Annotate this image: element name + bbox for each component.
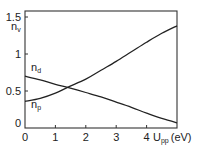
x-tick-label: 0 (22, 131, 28, 143)
series-label-n-d: nd (31, 61, 41, 74)
series-line-n-d (25, 76, 177, 123)
x-tick-label: 3 (113, 131, 119, 143)
x-tick-label: 2 (83, 131, 89, 143)
y-tick-label: 0 (15, 117, 21, 129)
x-axis-label: Upp(eV) (153, 131, 192, 145)
x-tick-label: 4 (144, 131, 150, 143)
line-chart: 01234 00.511.5 nv Upp(eV) nd np (0, 0, 200, 148)
y-tick-label: 0.5 (6, 85, 21, 97)
plot-frame (25, 11, 177, 128)
x-tick-label: 1 (52, 131, 58, 143)
series-label-n-p: np (31, 98, 41, 112)
series-lines (25, 26, 177, 123)
y-tick-label: 1 (15, 48, 21, 60)
series-line-n-p (25, 26, 177, 102)
